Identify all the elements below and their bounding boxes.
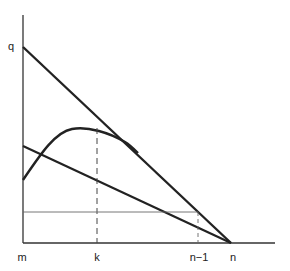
label-k: k <box>94 252 100 263</box>
label-n-minus-1: n−1 <box>190 252 209 263</box>
label-n: n <box>230 252 236 263</box>
upper-line <box>23 47 231 243</box>
label-q: q <box>8 41 14 52</box>
label-m: m <box>17 252 26 263</box>
lower-line <box>23 146 231 243</box>
diagram-canvas <box>0 0 290 271</box>
